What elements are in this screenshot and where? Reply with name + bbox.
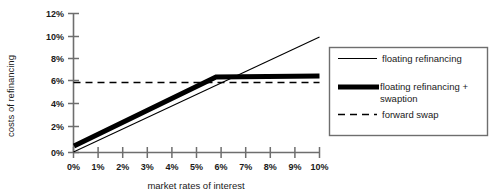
series-floating-refinancing — [74, 37, 320, 152]
x-tick-label-9: 9% — [288, 162, 301, 172]
x-tick-label-8: 8% — [264, 162, 277, 172]
x-tick-label-3: 3% — [141, 162, 154, 172]
y-tick-label-2: 2% — [51, 122, 64, 132]
y-axis-title: costs of refinancing — [5, 55, 16, 137]
x-axis-title: market rates of interest — [147, 180, 245, 191]
y-tick-label-12: 12% — [46, 9, 64, 19]
y-tick-label-0: 0% — [51, 148, 64, 158]
x-tick-label-1: 1% — [92, 162, 105, 172]
legend-label-floating-refinancing: floating refinancing — [382, 53, 462, 64]
x-tick-label-4: 4% — [165, 162, 178, 172]
x-tick-label-10: 10% — [310, 162, 328, 172]
x-tick-label-6: 6% — [215, 162, 228, 172]
x-tick-label-0: 0% — [67, 162, 80, 172]
y-tick-label-10: 10% — [46, 32, 64, 42]
x-tick-label-5: 5% — [190, 162, 203, 172]
y-tick-label-8: 8% — [51, 54, 64, 64]
chart-figure: 12% 10% 8% 6% 4% 2% 0% 0% 1% 2% 3% 4% 5%… — [0, 0, 494, 196]
legend-label-floating-refinancing-plus-swaption-line2: swaption — [380, 93, 418, 104]
x-tick-label-7: 7% — [239, 162, 252, 172]
y-tick-label-4: 4% — [51, 99, 64, 109]
y-tick-label-6: 6% — [51, 76, 64, 86]
chart-svg: 12% 10% 8% 6% 4% 2% 0% 0% 1% 2% 3% 4% 5%… — [0, 0, 494, 196]
series-floating-refinancing-plus-swaption — [74, 76, 320, 146]
x-tick-label-2: 2% — [116, 162, 129, 172]
legend-label-floating-refinancing-plus-swaption: floating refinancing + — [380, 81, 468, 92]
legend-label-forward-swap: forward swap — [382, 109, 439, 120]
